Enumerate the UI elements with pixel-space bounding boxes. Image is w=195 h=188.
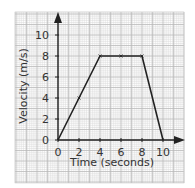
x-axis-label: Time (seconds) (69, 156, 154, 169)
svg-text:0: 0 (55, 146, 62, 159)
svg-text:4: 4 (42, 92, 49, 105)
y-axis-label: Velocity (m/s) (17, 48, 30, 123)
velocity-time-graph: 02468100246810 Time (seconds) Velocity (… (0, 0, 195, 188)
svg-text:8: 8 (42, 50, 49, 63)
svg-text:10: 10 (35, 29, 49, 42)
svg-text:0: 0 (42, 134, 49, 147)
svg-text:6: 6 (42, 71, 49, 84)
svg-text:10: 10 (156, 146, 170, 159)
svg-text:2: 2 (42, 113, 49, 126)
